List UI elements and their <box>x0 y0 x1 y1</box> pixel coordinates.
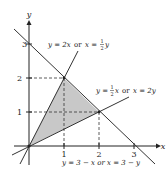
label-2x-main: y = 2x <box>47 41 71 49</box>
x-tick-label-2: 2 <box>96 150 101 159</box>
point-origin <box>27 144 30 147</box>
label-2x-alt: x = <box>85 41 97 49</box>
y-axis-arrow-icon <box>27 20 32 25</box>
label-half-after-frac: x <box>115 87 119 95</box>
label-2x-frac-num: 1 <box>100 38 103 44</box>
y-tick-label-3: 3 <box>22 40 27 49</box>
x-tick-label-3: 3 <box>131 150 136 159</box>
point-2-1 <box>98 111 101 114</box>
region-diagram: y x 1 2 3 1 2 3 y = 2x or x = 1 2 y y = … <box>0 0 167 174</box>
label-half-alt: x = 2y <box>133 87 157 95</box>
y-axis-label: y <box>26 10 32 19</box>
label-line-half-x: y = 1 2 x or x = 2y <box>95 84 157 97</box>
label-half-main: y = <box>95 87 108 95</box>
label-half-or: or <box>122 87 130 95</box>
label-half-frac-num: 1 <box>110 84 113 90</box>
label-2x-or: or <box>74 41 82 49</box>
label-half-frac-den: 2 <box>110 91 113 97</box>
label-2x-tail: y <box>104 41 110 49</box>
x-tick-label-1: 1 <box>61 150 66 159</box>
y-tick-label-2: 2 <box>17 74 22 83</box>
point-1-2 <box>63 77 66 80</box>
x-axis-label: x <box>161 142 166 151</box>
label-line-3-minus-x: y = 3 − x or x = 3 − y <box>61 159 141 167</box>
label-line-2x: y = 2x or x = 1 2 y <box>47 38 110 51</box>
y-tick-label-1: 1 <box>17 108 22 117</box>
label-2x-frac-den: 2 <box>100 45 103 51</box>
